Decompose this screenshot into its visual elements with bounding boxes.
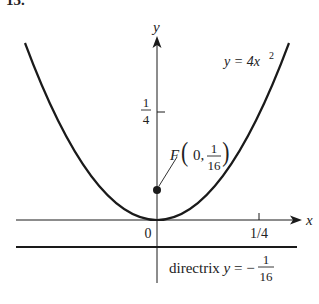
directrix-label: directrix y = − 1 16 [169, 252, 274, 284]
x-axis-label: x [305, 212, 313, 228]
svg-text:directrix y = −: directrix y = − [169, 260, 255, 276]
curve-equation-label: y = 4x 2 [222, 50, 274, 69]
y-tick-label: 1 4 [141, 95, 151, 127]
problem-number: 13. [6, 0, 25, 8]
svg-text:4: 4 [143, 112, 150, 127]
parabola-diagram: 13. x y 1 4 1/4 0 F ( 0, 1 16 ) y = 4x 2 [0, 0, 319, 304]
svg-text:(: ( [181, 136, 188, 167]
svg-text:0,: 0, [193, 147, 204, 163]
origin-label: 0 [145, 226, 152, 241]
focus-label: F ( 0, 1 16 ) [169, 136, 229, 173]
svg-text:16: 16 [260, 269, 274, 284]
svg-text:F: F [169, 147, 180, 163]
svg-text:16: 16 [208, 158, 222, 173]
svg-text:2: 2 [269, 50, 274, 61]
svg-text:1: 1 [211, 141, 218, 156]
svg-text:1: 1 [263, 252, 270, 267]
x-tick-label: 1/4 [250, 226, 268, 241]
y-axis-label: y [151, 19, 160, 35]
svg-text:y = 4x: y = 4x [222, 54, 261, 69]
focus-point [153, 186, 161, 194]
svg-text:1: 1 [143, 95, 150, 110]
svg-text:): ) [222, 136, 229, 167]
